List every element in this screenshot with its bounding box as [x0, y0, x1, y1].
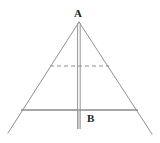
geometry-figure: A B [0, 0, 160, 143]
vertical-axis-line [78, 23, 81, 129]
left-slant-line [8, 22, 79, 133]
diagram-canvas [0, 0, 160, 143]
vertex-label-b: B [87, 113, 94, 124]
vertex-label-a: A [74, 8, 82, 19]
